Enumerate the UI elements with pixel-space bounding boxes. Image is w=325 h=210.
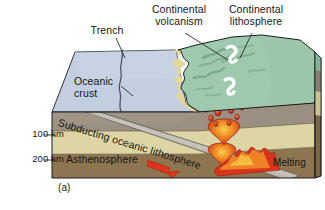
depth-tick-200km: 200 km (8, 154, 64, 165)
label-continental-lithosphere: Continental lithosphere (218, 4, 294, 28)
label-trench: Trench (80, 25, 134, 37)
panel-label: (a) (58, 182, 71, 193)
label-melting: Melting (273, 157, 306, 168)
subduction-block-diagram (0, 0, 325, 210)
label-oceanic-crust: Oceanic crust (74, 76, 132, 100)
label-continental-volcanism: Continental volcanism (143, 4, 215, 28)
label-asthenosphere: Asthenosphere (66, 154, 138, 166)
subduction-zone-figure: Trench Continental volcanism Continental… (0, 0, 325, 210)
block-front-face (52, 102, 315, 180)
depth-tick-100km: 100 km (8, 129, 64, 140)
block-right-face (315, 52, 321, 178)
continental-surface-top (178, 35, 315, 112)
